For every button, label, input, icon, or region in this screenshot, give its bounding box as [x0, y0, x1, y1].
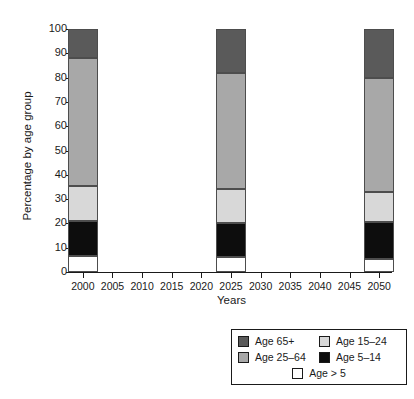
x-tick-label: 2005: [101, 280, 124, 293]
y-tick-label: 60: [55, 119, 67, 132]
bar-segment: [364, 78, 394, 192]
x-tick-mark: [350, 273, 351, 278]
bar-segment: [68, 29, 98, 58]
x-tick-label: 2050: [367, 280, 390, 293]
x-tick-mark: [320, 273, 321, 278]
legend-swatch-icon: [238, 336, 249, 347]
x-tick-mark: [201, 273, 202, 278]
x-tick-label: 2000: [71, 280, 94, 293]
bar-segment: [68, 221, 98, 256]
x-tick-label: 2040: [308, 280, 331, 293]
x-tick-label: 2010: [130, 280, 153, 293]
x-tick-mark: [231, 273, 232, 278]
x-tick-mark: [261, 273, 262, 278]
x-tick-mark: [142, 273, 143, 278]
y-tick-label: 50: [55, 144, 67, 157]
legend-label: Age 5–14: [336, 351, 381, 363]
bar-segment: [216, 29, 246, 73]
bar-segment: [364, 259, 394, 272]
y-tick-label: 80: [55, 71, 67, 84]
x-tick-mark: [172, 273, 173, 278]
legend-row: Age 65+Age 15–24: [238, 335, 400, 347]
chart-legend: Age 65+Age 15–24Age 25–64Age 5–14Age > 5: [231, 329, 407, 385]
legend-swatch-icon: [319, 336, 330, 347]
x-tick-mark: [83, 273, 84, 278]
legend-swatch-icon: [319, 352, 330, 363]
y-axis-title: Percentage by age group: [21, 56, 33, 256]
x-tick-label: 2015: [160, 280, 183, 293]
bar-segment: [364, 29, 394, 78]
legend-item[interactable]: Age > 5: [292, 367, 346, 379]
legend-item[interactable]: Age 5–14: [319, 351, 400, 363]
y-tick-label: 100: [49, 22, 67, 35]
x-tick-label: 2020: [190, 280, 213, 293]
legend-item[interactable]: Age 25–64: [238, 351, 319, 363]
bar-segment: [216, 189, 246, 223]
y-tick-label: 30: [55, 192, 67, 205]
x-tick-mark: [112, 273, 113, 278]
y-tick-label: 70: [55, 95, 67, 108]
legend-label: Age 65+: [255, 335, 294, 347]
legend-label: Age 15–24: [336, 335, 387, 347]
legend-item[interactable]: Age 65+: [238, 335, 319, 347]
legend-swatch-icon: [238, 352, 249, 363]
bar-segment: [216, 223, 246, 257]
legend-label: Age > 5: [309, 367, 346, 379]
stacked-bar: [364, 29, 394, 272]
legend-label: Age 25–64: [255, 351, 306, 363]
bar-segment: [364, 192, 394, 222]
y-tick-label: 20: [55, 216, 67, 229]
x-tick-label: 2035: [279, 280, 302, 293]
x-tick-label: 2045: [338, 280, 361, 293]
stacked-bar: [68, 29, 98, 272]
bar-segment: [68, 186, 98, 221]
x-tick-mark: [379, 273, 380, 278]
x-tick-label: 2025: [219, 280, 242, 293]
bar-segment: [68, 256, 98, 272]
x-axis-ticks: 2000200520102015202020252030203520402045…: [71, 273, 392, 295]
y-tick-label: 90: [55, 46, 67, 59]
x-axis-title: Years: [71, 294, 392, 306]
bar-segment: [364, 222, 394, 258]
legend-row: Age > 5: [238, 367, 400, 379]
x-tick-label: 2030: [249, 280, 272, 293]
y-tick-label: 10: [55, 241, 67, 254]
bar-segment: [216, 73, 246, 190]
bar-segment: [68, 58, 98, 186]
bar-segment: [216, 257, 246, 272]
chart-figure: 0102030405060708090100 20002005201020152…: [0, 0, 414, 399]
y-tick-label: 40: [55, 168, 67, 181]
x-tick-mark: [290, 273, 291, 278]
plot-area: 0102030405060708090100: [71, 29, 391, 272]
y-tick-label: 0: [61, 265, 67, 278]
stacked-bar: [216, 29, 246, 272]
legend-swatch-icon: [292, 368, 303, 379]
legend-row: Age 25–64Age 5–14: [238, 351, 400, 363]
legend-item[interactable]: Age 15–24: [319, 335, 400, 347]
